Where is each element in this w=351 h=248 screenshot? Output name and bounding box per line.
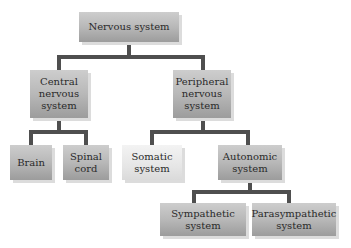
node-label: Spinal cord <box>70 151 102 175</box>
node-brain: Brain <box>10 145 52 180</box>
node-label: Parasympathetic system <box>252 208 337 232</box>
connector-level1-bar <box>57 55 205 59</box>
connector-cns-drop <box>57 55 61 71</box>
node-label: Somatic system <box>131 151 172 175</box>
connector-pns-drop <box>201 55 205 71</box>
connector-cns-bar <box>29 130 88 134</box>
node-somatic-system: Somatic system <box>122 145 182 180</box>
node-label: Nervous system <box>88 21 169 33</box>
node-label: Autonomic system <box>223 151 277 175</box>
node-parasympathetic-system: Parasympathetic system <box>252 203 336 236</box>
node-autonomic-system: Autonomic system <box>218 145 282 180</box>
node-label: Peripheral nervous system <box>176 76 229 112</box>
connector-sympathetic-drop <box>192 190 196 204</box>
connector-pns-bar <box>150 130 250 134</box>
node-central-nervous-system: Central nervous system <box>30 70 88 118</box>
node-label: Central nervous system <box>39 76 79 112</box>
node-spinal-cord: Spinal cord <box>63 145 109 180</box>
node-label: Brain <box>17 157 45 169</box>
connector-somatic-drop <box>150 130 154 146</box>
node-sympathetic-system: Sympathetic system <box>160 203 246 236</box>
node-nervous-system: Nervous system <box>79 12 179 42</box>
connector-parasympathetic-drop <box>287 190 291 204</box>
connector-spinal-drop <box>84 130 88 146</box>
connector-autonomic-bar <box>192 190 291 194</box>
node-peripheral-nervous-system: Peripheral nervous system <box>173 70 231 118</box>
connector-brain-drop <box>29 130 33 146</box>
node-label: Sympathetic system <box>171 208 235 232</box>
connector-autonomic-drop <box>246 130 250 146</box>
